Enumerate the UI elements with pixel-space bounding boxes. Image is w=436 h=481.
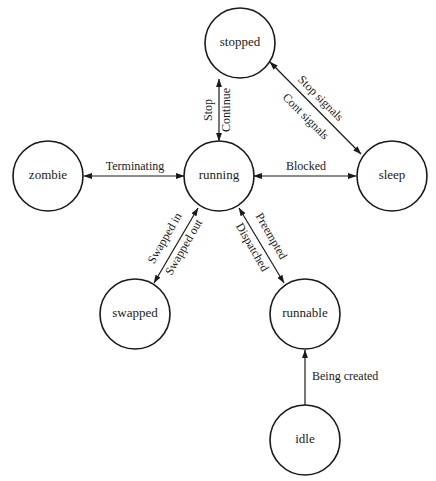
node-label-zombie: zombie (29, 167, 67, 182)
node-sleep: sleep (357, 141, 427, 211)
node-label-idle: idle (295, 431, 315, 446)
label-stop: Stop (201, 99, 215, 121)
node-label-swapped: swapped (112, 305, 158, 320)
node-label-runnable: runnable (282, 305, 328, 320)
node-idle: idle (270, 405, 340, 475)
node-runnable: runnable (270, 279, 340, 349)
process-state-diagram: Stop Continue Stop signals Cont signals … (0, 0, 436, 481)
label-terminating: Terminating (106, 159, 164, 173)
node-running: running (184, 141, 254, 211)
node-label-stopped: stopped (220, 34, 261, 49)
node-label-sleep: sleep (379, 167, 406, 182)
label-being-created: Being created (312, 369, 378, 383)
node-zombie: zombie (13, 141, 83, 211)
node-stopped: stopped (205, 8, 275, 78)
label-continue: Continue (219, 88, 233, 132)
node-label-running: running (199, 167, 240, 182)
label-blocked: Blocked (286, 159, 326, 173)
edge-stopped-sleep (270, 62, 361, 154)
node-swapped: swapped (100, 279, 170, 349)
